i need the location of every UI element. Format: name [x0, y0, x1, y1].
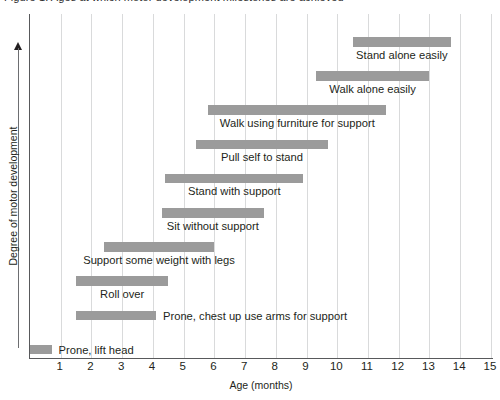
milestone-label: Stand with support	[188, 184, 281, 198]
x-tick-label: 15	[477, 360, 500, 372]
bar-row: Stand alone easily	[30, 30, 493, 64]
milestone-label: Prone, lift head	[59, 343, 134, 357]
milestone-bar	[162, 208, 263, 218]
bar-row: Walk using furniture for support	[30, 98, 493, 132]
milestone-bar	[316, 71, 430, 81]
bar-row: Support some weight with legs	[30, 235, 493, 269]
milestone-label: Walk alone easily	[329, 82, 416, 96]
milestone-label: Prone, chest up use arms for support	[163, 309, 347, 323]
milestone-label: Sit without support	[167, 219, 259, 233]
x-tick-label: 12	[385, 360, 411, 372]
bar-row: Sit without support	[30, 201, 493, 235]
milestone-bar	[76, 311, 156, 321]
milestone-bar	[104, 242, 215, 252]
x-tick-label: 10	[323, 360, 349, 372]
y-axis-label: Degree of motor development	[7, 46, 19, 346]
milestone-bar	[196, 140, 328, 150]
plot-area: Stand alone easilyWalk alone easilyWalk …	[29, 14, 493, 359]
x-tick-label: 4	[139, 360, 165, 372]
milestone-bar	[76, 276, 168, 286]
x-tick-label: 7	[231, 360, 257, 372]
milestone-label: Roll over	[100, 287, 144, 301]
motor-development-gantt-chart: Figure 1: Ages at which motor developmen…	[0, 0, 500, 400]
bar-row: Walk alone easily	[30, 64, 493, 98]
x-tick-label: 2	[77, 360, 103, 372]
x-tick-label: 3	[108, 360, 134, 372]
x-tick-label: 5	[170, 360, 196, 372]
x-tick-label: 6	[200, 360, 226, 372]
milestone-bar	[165, 174, 303, 184]
x-tick-label: 13	[415, 360, 441, 372]
milestone-bar	[30, 345, 52, 355]
milestone-label: Walk using furniture for support	[220, 116, 375, 130]
x-tick-label: 9	[293, 360, 319, 372]
milestone-label: Stand alone easily	[356, 48, 447, 62]
chart-title: Figure 1: Ages at which motor developmen…	[4, 0, 496, 3]
milestone-bar	[353, 37, 451, 47]
x-tick-label: 11	[354, 360, 380, 372]
bar-row: Prone, chest up use arms for support	[30, 304, 493, 338]
milestone-label: Support some weight with legs	[83, 253, 235, 267]
bar-row: Pull self to stand	[30, 133, 493, 167]
bar-row: Stand with support	[30, 167, 493, 201]
x-axis-label: Age (months)	[29, 379, 493, 391]
x-axis-ticks: 123456789101112131415	[29, 360, 493, 378]
bar-row: Roll over	[30, 269, 493, 303]
y-axis: Degree of motor development	[0, 42, 26, 354]
x-tick-label: 8	[262, 360, 288, 372]
milestone-bar	[208, 105, 386, 115]
bar-rows: Stand alone easilyWalk alone easilyWalk …	[30, 14, 493, 358]
milestone-label: Pull self to stand	[221, 150, 303, 164]
x-tick-label: 1	[47, 360, 73, 372]
x-tick-label: 14	[446, 360, 472, 372]
